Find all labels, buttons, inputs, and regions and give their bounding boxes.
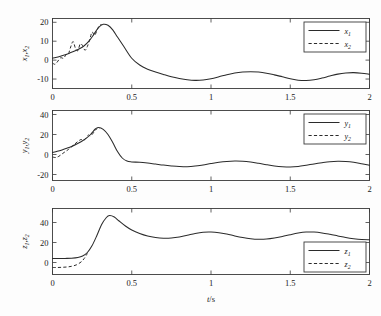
svg-text:20: 20 <box>40 238 49 248</box>
figure-xlabel: t/s <box>207 294 215 304</box>
svg-text:0: 0 <box>44 55 48 65</box>
svg-text:y1,y2: y1,y2 <box>19 138 30 155</box>
svg-text:1: 1 <box>209 184 213 194</box>
svg-text:2: 2 <box>367 184 371 194</box>
svg-text:z1,z2: z1,z2 <box>19 234 30 250</box>
svg-text:40: 40 <box>40 218 49 228</box>
svg-text:10: 10 <box>40 36 49 46</box>
svg-text:-10: -10 <box>37 74 48 84</box>
svg-text:t/s: t/s <box>207 294 215 304</box>
svg-text:1.5: 1.5 <box>285 184 296 194</box>
panel-x-svg: 20100-10 00.511.52 x1x2 x1,x2 <box>0 0 381 110</box>
svg-text:20: 20 <box>40 130 49 140</box>
panel-y-svg: 40200-20 00.511.52 y1y2 y1,y2 <box>0 100 381 210</box>
svg-text:-20: -20 <box>37 170 48 180</box>
panel-z-legend[interactable]: z1z2 <box>304 242 366 272</box>
panel-z-svg: 40200 00.511.52 z1z2 z1,z2 t/s <box>0 200 381 316</box>
svg-text:0: 0 <box>44 258 48 268</box>
figure-container: 20100-10 00.511.52 x1x2 x1,x2 40200-20 0… <box>0 0 381 316</box>
panel-y-legend[interactable]: y1y2 <box>304 114 366 144</box>
subplot-panel-z: 40200 00.511.52 z1z2 z1,z2 t/s <box>0 200 381 316</box>
svg-text:40: 40 <box>40 110 49 120</box>
subplot-panel-x: 20100-10 00.511.52 x1x2 x1,x2 <box>0 0 381 110</box>
svg-text:0.5: 0.5 <box>126 184 137 194</box>
svg-text:0: 0 <box>44 150 48 160</box>
svg-text:1: 1 <box>209 278 213 288</box>
subplot-panel-y: 40200-20 00.511.52 y1y2 y1,y2 <box>0 100 381 210</box>
svg-text:x1,x2: x1,x2 <box>19 46 30 63</box>
panel-x-ylabel: x1,x2 <box>19 46 30 63</box>
svg-text:0: 0 <box>50 278 54 288</box>
svg-text:20: 20 <box>40 17 49 27</box>
panel-y-ylabel: y1,y2 <box>19 138 30 155</box>
panel-z-ylabel: z1,z2 <box>19 234 30 250</box>
svg-text:2: 2 <box>367 278 371 288</box>
svg-text:1.5: 1.5 <box>285 278 296 288</box>
svg-text:0: 0 <box>50 184 54 194</box>
panel-x-legend[interactable]: x1x2 <box>304 22 366 52</box>
svg-text:0.5: 0.5 <box>126 278 137 288</box>
